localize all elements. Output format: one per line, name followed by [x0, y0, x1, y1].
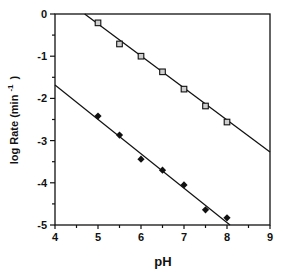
plot-border [55, 14, 270, 225]
plot-frame [55, 14, 270, 225]
x-tick-label: 6 [138, 231, 144, 243]
y-axis-title-superscript: -1 [6, 84, 15, 92]
square-marker [224, 119, 230, 125]
x-axis: 456789 [52, 225, 273, 243]
y-axis-title-close: ) [8, 75, 20, 79]
y-axis: 0-1-2-3-4-5 [37, 8, 55, 231]
y-axis-title: log Rate (min -1 ) [3, 75, 20, 164]
x-tick-label: 4 [52, 231, 59, 243]
y-tick-label: -3 [37, 135, 47, 147]
x-tick-label: 5 [95, 231, 101, 243]
y-tick-label: -2 [37, 92, 47, 104]
x-tick-label: 8 [224, 231, 230, 243]
x-axis-title: pH [154, 254, 171, 269]
x-tick-label: 7 [181, 231, 187, 243]
fit-lines [55, 14, 270, 225]
square-marker [160, 69, 166, 75]
x-tick-label: 9 [267, 231, 273, 243]
square-marker [181, 86, 187, 92]
y-tick-label: -4 [37, 177, 48, 189]
y-tick-label: 0 [41, 8, 47, 20]
square-marker [117, 41, 123, 47]
diamond-marker [137, 156, 144, 163]
diamond-marker [94, 113, 101, 120]
y-tick-label: -1 [37, 50, 47, 62]
data-markers [94, 20, 230, 221]
diamond-marker [116, 132, 123, 139]
diamond-marker [180, 181, 187, 188]
chart: 456789 0-1-2-3-4-5 pH log Rate (min -1 ) [0, 0, 283, 279]
y-tick-label: -5 [37, 219, 47, 231]
square-marker [203, 103, 209, 109]
square-marker [138, 53, 144, 59]
y-axis-title-main: log Rate (min [8, 94, 20, 164]
square-marker [95, 20, 101, 26]
